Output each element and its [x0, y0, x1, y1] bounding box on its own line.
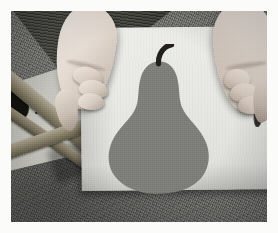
hand-left-finger-3: [78, 93, 105, 111]
hand-left: [50, 11, 122, 141]
pear-silhouette: [107, 44, 211, 196]
photo-frame: [0, 0, 278, 233]
photo-canvas: [11, 11, 267, 222]
pear-body: [109, 62, 209, 194]
hand-right: [207, 11, 267, 141]
pear-stem: [158, 45, 171, 64]
